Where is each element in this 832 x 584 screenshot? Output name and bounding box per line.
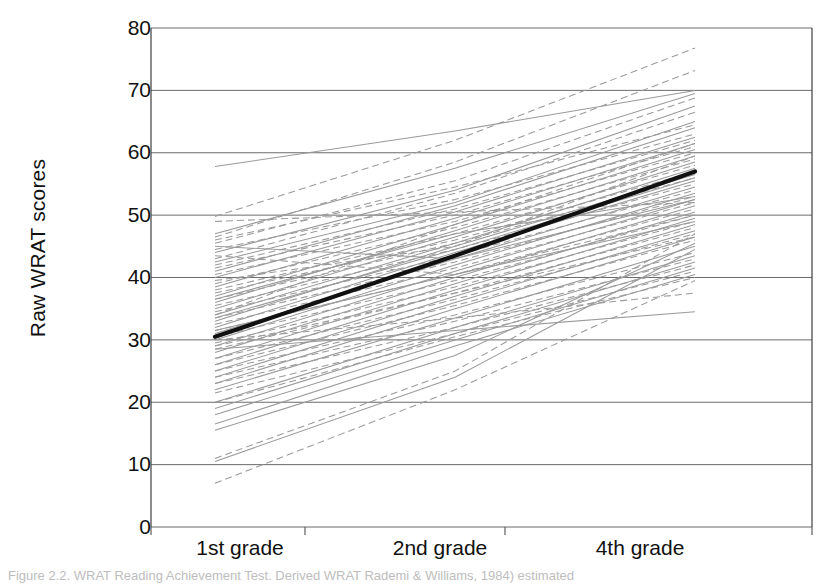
series-line — [215, 265, 695, 384]
chart-figure: Raw WRAT scores 80 70 60 50 40 30 20 10 … — [0, 0, 832, 584]
series-line — [215, 94, 695, 234]
series-line — [215, 293, 695, 340]
x-tick-4th-grade: 4th grade — [596, 536, 685, 560]
series-line — [215, 274, 695, 424]
figure-caption: Figure 2.2. WRAT Reading Achievement Tes… — [8, 568, 828, 583]
x-tick-1st-grade: 1st grade — [196, 536, 284, 560]
x-tick-2nd-grade: 2nd grade — [393, 536, 488, 560]
series-line — [215, 90, 695, 166]
plot-canvas — [0, 0, 832, 584]
